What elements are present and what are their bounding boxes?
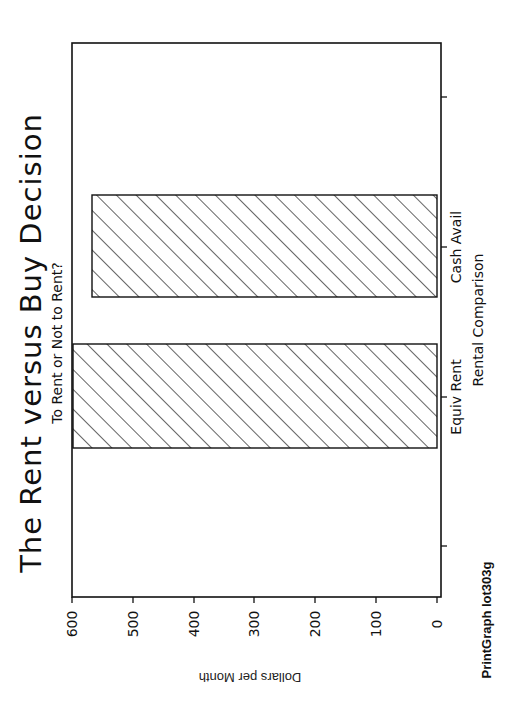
category-label-cash-avail: Cash Avail <box>448 211 464 283</box>
value-tick-500: 500 <box>123 604 143 644</box>
value-tick-0: 0 <box>427 604 447 644</box>
value-tick-300: 300 <box>244 604 264 644</box>
chart-title: The Rent versus Buy Decision <box>14 93 48 593</box>
category-axis-title: Rental Comparison <box>470 43 486 597</box>
plot-frame <box>72 43 441 597</box>
chart-subtitle: To Rent or Not to Rent? <box>49 93 65 593</box>
bar-cash-avail <box>92 195 437 297</box>
bar-equiv-rent <box>73 344 437 448</box>
value-axis-labels: 600 500 400 300 200 100 0 <box>60 598 450 648</box>
value-tick-400: 400 <box>184 604 204 644</box>
value-axis-title: Dollars per Month <box>150 670 350 692</box>
value-tick-600: 600 <box>62 604 82 644</box>
value-tick-200: 200 <box>305 604 325 644</box>
value-tick-100: 100 <box>366 604 386 644</box>
printgraph-footer: PrintGraph lot303g <box>476 540 496 700</box>
category-label-equiv-rent: Equiv Rent <box>448 359 464 434</box>
category-ticks <box>441 97 447 546</box>
